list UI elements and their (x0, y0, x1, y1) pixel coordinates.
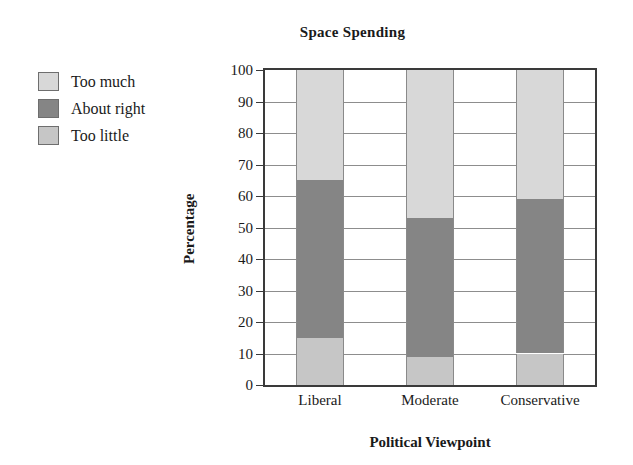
x-axis-title: Political Viewpoint (263, 434, 597, 451)
bar-segment-liberal-about-right (296, 180, 344, 338)
y-axis: 0102030405060708090100 (205, 68, 263, 387)
legend-label-too-little: Too little (71, 128, 129, 144)
y-axis-tick (256, 133, 263, 134)
legend-item-too-much: Too much (38, 68, 208, 95)
chart-legend: Too much About right Too little (38, 68, 208, 149)
y-axis-tick-label: 10 (238, 345, 253, 362)
x-axis-tick-label: Liberal (298, 392, 341, 409)
y-axis-title: Percentage (181, 193, 198, 264)
y-axis-tick (256, 70, 263, 71)
x-axis-tick-label: Moderate (401, 392, 458, 409)
y-axis-tick-label: 30 (238, 282, 253, 299)
y-axis-tick (256, 259, 263, 260)
y-axis-tick-label: 40 (238, 251, 253, 268)
y-axis-tick-label: 100 (231, 62, 254, 79)
legend-label-too-much: Too much (71, 74, 135, 90)
bar-liberal (296, 70, 344, 385)
y-axis-tick-label: 80 (238, 125, 253, 142)
y-axis-tick-label: 20 (238, 314, 253, 331)
plot-area (263, 68, 597, 387)
y-axis-tick (256, 165, 263, 166)
legend-swatch-too-much (38, 72, 59, 91)
bar-segment-moderate-about-right (406, 218, 454, 357)
y-axis-tick (256, 385, 263, 386)
y-axis-tick (256, 354, 263, 355)
legend-swatch-about-right (38, 99, 59, 118)
bar-moderate (406, 70, 454, 385)
bar-segment-conservative-too-little (516, 354, 564, 386)
legend-item-about-right: About right (38, 95, 208, 122)
bar-segment-liberal-too-much (296, 70, 344, 180)
plot-inner (265, 70, 595, 385)
bar-conservative (516, 70, 564, 385)
y-axis-tick-label: 0 (246, 377, 254, 394)
y-axis-tick-label: 60 (238, 188, 253, 205)
bar-segment-liberal-too-little (296, 338, 344, 385)
x-axis-tick-label: Conservative (500, 392, 579, 409)
bar-segment-moderate-too-little (406, 357, 454, 385)
legend-swatch-too-little (38, 126, 59, 145)
y-axis-tick-label: 70 (238, 156, 253, 173)
bar-segment-conservative-about-right (516, 199, 564, 353)
legend-item-too-little: Too little (38, 122, 208, 149)
bar-segment-conservative-too-much (516, 70, 564, 199)
y-axis-tick (256, 196, 263, 197)
chart-title-text: Space Spending (300, 24, 406, 41)
chart-title: Space Spending (0, 24, 633, 41)
y-axis-tick-label: 90 (238, 93, 253, 110)
bar-segment-moderate-too-much (406, 70, 454, 218)
legend-label-about-right: About right (71, 101, 145, 117)
x-axis-tick-labels: LiberalModerateConservative (263, 392, 597, 418)
y-axis-tick (256, 228, 263, 229)
y-axis-tick (256, 102, 263, 103)
y-axis-tick (256, 291, 263, 292)
y-axis-tick-label: 50 (238, 219, 253, 236)
y-axis-tick (256, 322, 263, 323)
